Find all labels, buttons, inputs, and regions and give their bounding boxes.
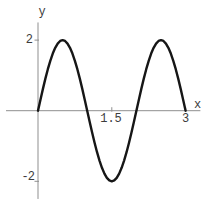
x-tick-label-3: 3: [175, 113, 196, 125]
x-tick-label-1-5: 1.5: [96, 113, 126, 125]
y-axis-label: y: [36, 6, 48, 18]
sine-plot-figure: y x 2 -2 1.5 3: [0, 0, 210, 205]
y-tick-label-2: 2: [14, 34, 33, 46]
y-tick-label-neg-2: -2: [10, 171, 34, 183]
x-axis-label: x: [194, 99, 206, 111]
